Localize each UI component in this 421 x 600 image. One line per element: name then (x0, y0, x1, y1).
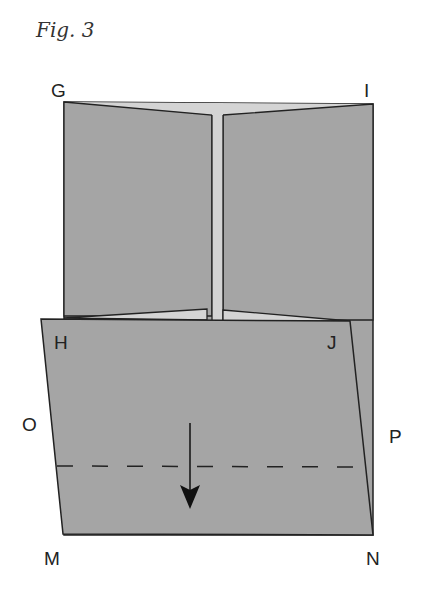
upper-right-panel (223, 104, 373, 320)
label-p: P (389, 426, 402, 447)
label-j: J (327, 332, 337, 353)
folding-diagram: G I H J O P M N (0, 0, 421, 600)
label-o: O (22, 414, 37, 435)
center-gap (212, 113, 223, 321)
upper-left-panel (64, 102, 212, 316)
fold-line-dashed (57, 466, 362, 467)
front-flap (41, 319, 373, 535)
label-i: I (364, 80, 369, 101)
label-h: H (54, 332, 68, 353)
label-n: N (366, 548, 380, 569)
label-m: M (44, 548, 60, 569)
label-g: G (51, 80, 66, 101)
